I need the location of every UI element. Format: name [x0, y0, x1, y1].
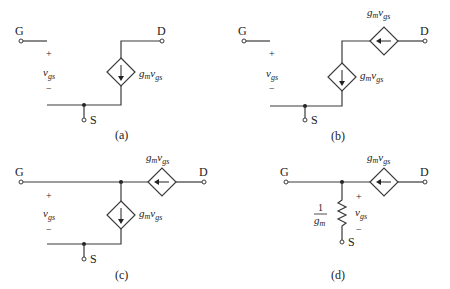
vgs-plus: + — [46, 190, 52, 201]
drain-label: D — [157, 24, 166, 38]
caption: (c) — [115, 268, 128, 282]
drain-terminal — [423, 180, 427, 184]
source-wire — [270, 91, 342, 106]
drain-label: D — [420, 165, 429, 179]
source-terminal — [303, 118, 307, 122]
source-terminal — [82, 118, 86, 122]
vgs-minus: − — [356, 224, 362, 235]
vgs-plus: + — [269, 48, 275, 59]
vgs-minus: − — [269, 83, 275, 94]
gate-label: G — [280, 165, 289, 179]
drain-terminal — [423, 39, 427, 43]
panel-c: G gmvgs D + vgs − gmvgs S (c) — [15, 151, 208, 282]
source-terminal — [82, 257, 86, 261]
caption: (a) — [115, 128, 128, 142]
source-terminal — [340, 240, 344, 244]
vgs-label: vgs — [43, 66, 55, 81]
gate-label: G — [15, 165, 24, 179]
drain-terminal — [160, 39, 164, 43]
caption: (b) — [331, 129, 345, 143]
gate-terminal — [284, 180, 288, 184]
gate-terminal — [19, 39, 23, 43]
source-label: gmvgs — [139, 67, 162, 82]
source-label-horizontal: gmvgs — [146, 151, 169, 166]
source-terminal-label: S — [311, 113, 318, 127]
resistor-denominator: gm — [314, 214, 326, 228]
gate-terminal — [242, 39, 246, 43]
panel-d: G gmvgs D S 1 gm + vgs − (d) — [280, 151, 429, 282]
drain-terminal — [202, 180, 206, 184]
vgs-label: vgs — [355, 206, 367, 221]
source-label-horizontal: gmvgs — [367, 151, 390, 166]
vgs-label: vgs — [43, 207, 55, 222]
drain-label: D — [199, 165, 208, 179]
drain-label: D — [420, 24, 429, 38]
vgs-minus: − — [46, 83, 52, 94]
vgs-label: vgs — [266, 67, 278, 82]
source-terminal-label: S — [348, 235, 355, 249]
panel-b: G + vgs − gmvgs D gmvgs S (b) — [238, 6, 429, 143]
panel-a: G + vgs − D gmvgs S (a) — [15, 24, 166, 142]
gate-label: G — [15, 24, 24, 38]
source-wire — [47, 229, 121, 244]
vgs-plus: + — [46, 48, 52, 59]
source-label-vertical: gmvgs — [139, 207, 162, 222]
caption: (d) — [331, 268, 345, 282]
gate-terminal — [19, 180, 23, 184]
source-wire — [47, 86, 121, 105]
source-label-horizontal: gmvgs — [367, 6, 390, 21]
gate-label: G — [238, 24, 247, 38]
source-label-vertical: gmvgs — [360, 69, 383, 84]
vgs-plus: + — [356, 191, 362, 202]
drain-wire — [121, 41, 160, 58]
vgs-minus: − — [46, 224, 52, 235]
resistor-numerator: 1 — [318, 202, 323, 213]
drain-wire — [342, 41, 370, 63]
resistor — [338, 182, 346, 240]
source-terminal-label: S — [90, 252, 97, 266]
source-terminal-label: S — [90, 113, 97, 127]
